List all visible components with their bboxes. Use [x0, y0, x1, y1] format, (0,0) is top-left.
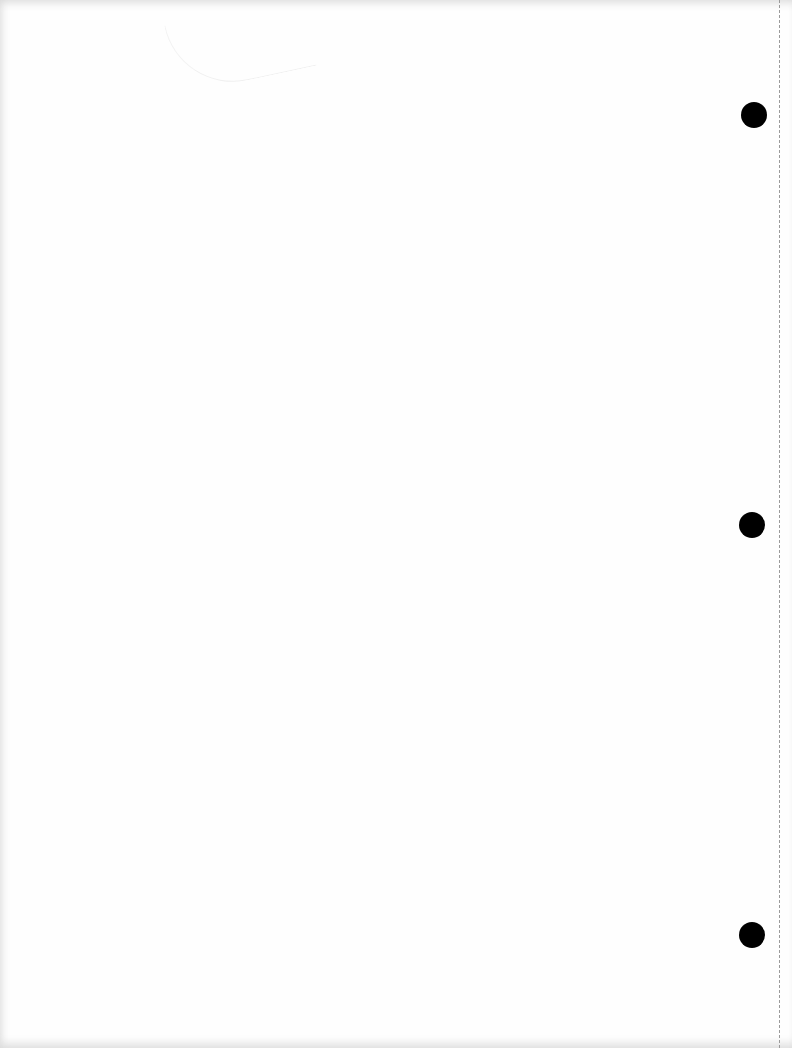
punch-hole-middle: [739, 512, 765, 538]
blank-page: [0, 0, 792, 1048]
perforation-line: [779, 0, 780, 1048]
punch-hole-top: [741, 102, 767, 128]
scan-artifact-curve: [164, 0, 317, 95]
punch-hole-bottom: [739, 922, 765, 948]
